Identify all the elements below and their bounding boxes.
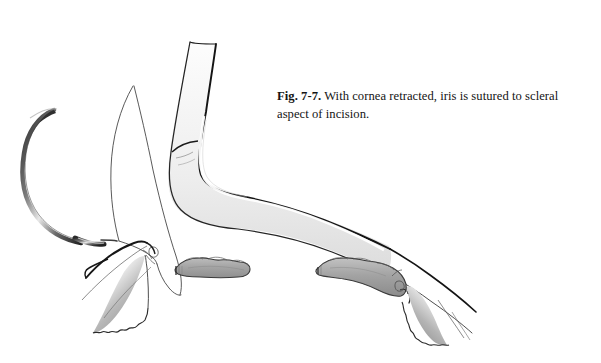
figure-illustration-page: Fig. 7-7. With cornea retracted, iris is… (0, 0, 601, 363)
figure-number-label: Fig. 7-7. (277, 89, 321, 103)
curved-needle-icon (23, 109, 117, 244)
surgical-illustration (0, 0, 601, 363)
iris-tissue (175, 257, 250, 278)
scleral-wedge-left (82, 242, 155, 334)
figure-caption: Fig. 7-7. With cornea retracted, iris is… (277, 88, 587, 124)
retracted-cornea (168, 42, 476, 333)
scleral-wedge-right (316, 258, 470, 346)
